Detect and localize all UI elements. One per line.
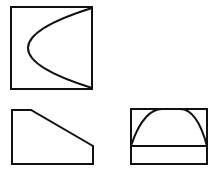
orthographic-drawing bbox=[0, 0, 217, 173]
side-view-arch bbox=[131, 109, 207, 146]
top-view-parabola bbox=[28, 8, 92, 88]
front-view-outline bbox=[12, 110, 93, 164]
drawing-svg bbox=[0, 0, 217, 173]
top-view bbox=[11, 7, 92, 89]
front-view bbox=[12, 110, 93, 164]
top-view-outline bbox=[11, 7, 92, 89]
side-view bbox=[131, 109, 207, 164]
